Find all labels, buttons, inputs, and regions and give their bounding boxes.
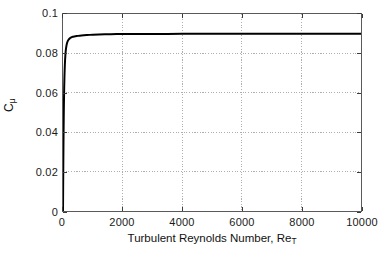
y-tick-mark	[357, 132, 361, 133]
y-tick-mark	[357, 13, 361, 14]
y-tick-mark	[63, 212, 67, 213]
y-tick-mark	[357, 212, 361, 213]
y-tick-mark	[357, 172, 361, 173]
x-axis-label-subscript: T	[291, 237, 296, 246]
y-tick-label: 0.02	[36, 166, 58, 178]
x-tick-label: 2000	[109, 216, 134, 228]
x-tick-mark	[302, 14, 303, 18]
x-tick-mark	[182, 207, 183, 211]
plot-area	[62, 13, 362, 212]
y-tick-label: 0.1	[42, 7, 58, 19]
x-tick-label: 0	[59, 216, 65, 228]
x-tick-mark	[362, 207, 363, 211]
x-tick-label: 6000	[229, 216, 254, 228]
x-tick-mark	[242, 207, 243, 211]
x-tick-mark	[62, 14, 63, 18]
x-tick-mark	[242, 14, 243, 18]
x-tick-label: 10000	[346, 216, 378, 228]
y-tick-label: 0.06	[36, 87, 58, 99]
chart-figure: 0200040006000800010000 00.020.040.060.08…	[0, 0, 383, 255]
y-tick-label: 0.04	[36, 126, 58, 138]
x-tick-mark	[302, 207, 303, 211]
x-axis-label-text: Turbulent Reynolds Number, Re	[128, 232, 292, 244]
y-tick-mark	[357, 53, 361, 54]
x-axis-label: Turbulent Reynolds Number, ReT	[62, 232, 362, 246]
x-tick-label: 4000	[169, 216, 194, 228]
x-tick-mark	[362, 14, 363, 18]
x-tick-mark	[122, 14, 123, 18]
y-tick-mark	[63, 132, 67, 133]
data-series-line	[63, 14, 361, 211]
y-axis-label-subscript: μ	[7, 98, 17, 103]
y-tick-mark	[63, 13, 67, 14]
x-tick-mark	[62, 207, 63, 211]
y-tick-mark	[63, 53, 67, 54]
plot-inner	[63, 14, 361, 211]
y-tick-mark	[357, 93, 361, 94]
y-axis-label-text: C	[2, 103, 16, 112]
x-tick-mark	[122, 207, 123, 211]
x-tick-label: 8000	[289, 216, 314, 228]
y-tick-label: 0.08	[36, 47, 58, 59]
y-tick-mark	[63, 93, 67, 94]
y-axis-label: Cμ	[2, 98, 17, 112]
y-tick-mark	[63, 172, 67, 173]
x-tick-mark	[182, 14, 183, 18]
y-tick-label: 0	[52, 206, 58, 218]
